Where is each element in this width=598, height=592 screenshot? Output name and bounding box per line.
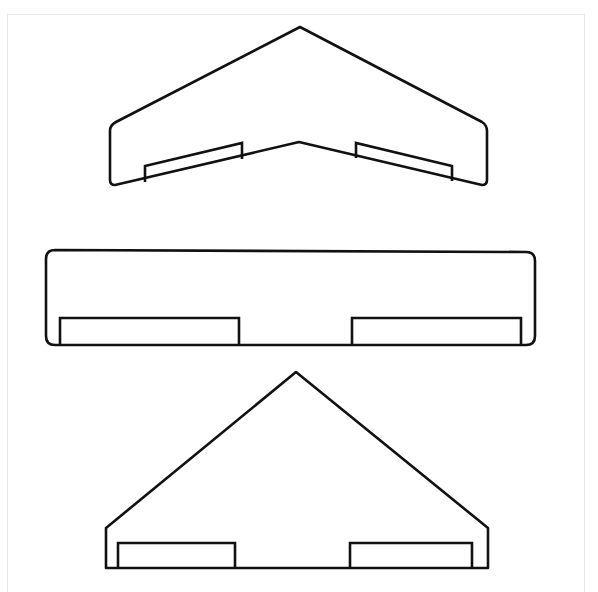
figure-bottom-door-right xyxy=(350,543,472,568)
figure-top-door-left xyxy=(145,143,242,182)
figure-middle-door-left xyxy=(60,318,239,345)
figure-bottom-outline xyxy=(106,372,488,568)
drawing-sheet: Building elevation drawings Three hand-i… xyxy=(0,0,598,592)
figure-middle-door-right xyxy=(352,318,521,345)
elevation-drawings-canvas: Building elevation drawings Three hand-i… xyxy=(0,0,598,592)
figure-bottom-triangular-gable-elevation xyxy=(106,372,488,568)
figure-middle-flat-roof-elevation xyxy=(46,250,535,345)
figure-bottom-door-left xyxy=(118,543,235,568)
figure-middle-outline xyxy=(46,250,535,345)
figure-top-chevron-gable-elevation xyxy=(110,27,487,185)
